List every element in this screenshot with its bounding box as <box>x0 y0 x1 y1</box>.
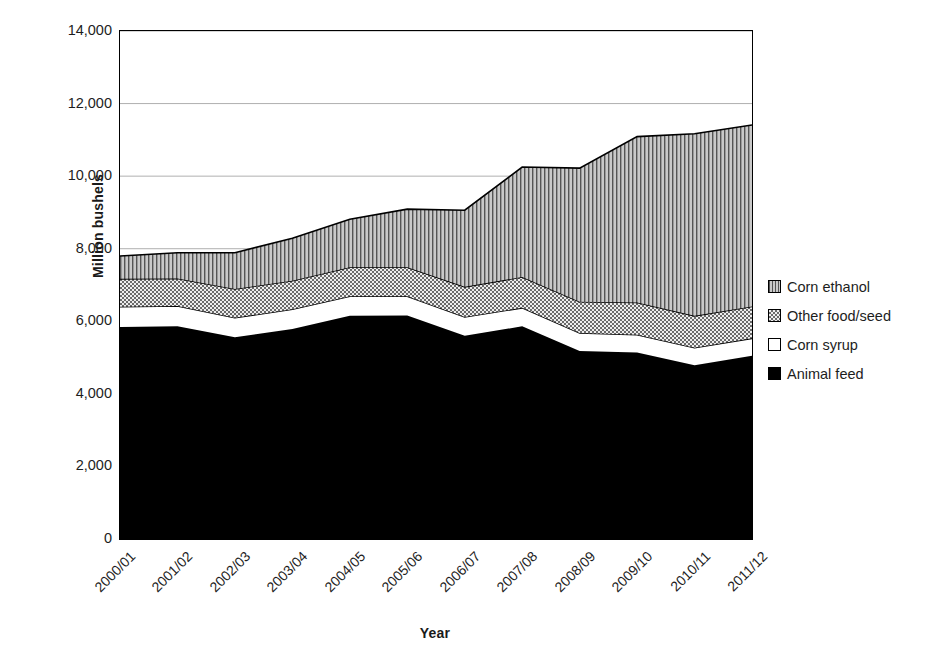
x-tick-label: 2000/01 <box>0 548 138 655</box>
legend-swatch-icon <box>768 338 781 351</box>
legend-item-animal-feed[interactable]: Animal feed <box>768 359 948 388</box>
x-axis-title: Year <box>119 625 751 641</box>
legend-item-corn-ethanol[interactable]: Corn ethanol <box>768 272 948 301</box>
legend-label: Corn ethanol <box>787 279 870 295</box>
legend-item-corn-syrup[interactable]: Corn syrup <box>768 330 948 359</box>
legend-swatch-icon <box>768 367 781 380</box>
legend-item-other-food-seed[interactable]: Other food/seed <box>768 301 948 330</box>
legend-label: Other food/seed <box>787 308 891 324</box>
legend-label: Animal feed <box>787 366 864 382</box>
legend-swatch-icon <box>768 280 781 293</box>
stacked-area-chart: Million bushels 02,0004,0006,0008,00010,… <box>0 0 951 655</box>
chart-legend: Corn ethanolOther food/seedCorn syrupAni… <box>768 272 948 388</box>
legend-label: Corn syrup <box>787 337 858 353</box>
legend-swatch-icon <box>768 309 781 322</box>
